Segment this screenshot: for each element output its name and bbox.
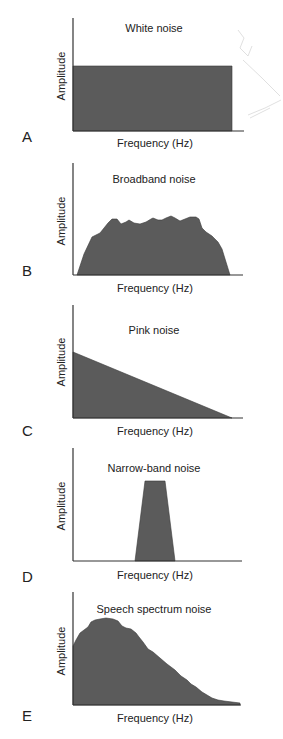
panel-title: Narrow-band noise bbox=[108, 462, 201, 474]
x-axis-label: Frequency (Hz) bbox=[117, 282, 193, 294]
panel-b: Broadband noise Amplitude Frequency (Hz)… bbox=[22, 163, 243, 294]
panel-letter: B bbox=[22, 262, 32, 279]
x-axis-label: Frequency (Hz) bbox=[117, 569, 193, 581]
panel-title: Broadband noise bbox=[112, 173, 195, 185]
x-axis-label: Frequency (Hz) bbox=[117, 712, 193, 724]
panel-letter: A bbox=[22, 128, 32, 145]
y-axis-label: Amplitude bbox=[55, 197, 67, 246]
noise-spectra-figure: White noise Amplitude Frequency (Hz) A B… bbox=[0, 0, 283, 739]
panel-letter: C bbox=[22, 422, 33, 439]
broadband-noise-spectrum bbox=[77, 216, 230, 275]
sketch-marks bbox=[238, 30, 281, 118]
pink-noise-spectrum bbox=[73, 352, 232, 418]
panel-e: Speech spectrum noise Amplitude Frequenc… bbox=[22, 592, 241, 724]
white-noise-spectrum bbox=[73, 66, 232, 131]
panel-c: Pink noise Amplitude Frequency (Hz) C bbox=[22, 305, 243, 439]
panel-title: White noise bbox=[125, 22, 182, 34]
panel-title: Pink noise bbox=[129, 324, 180, 336]
y-axis-label: Amplitude bbox=[55, 482, 67, 531]
panel-letter: E bbox=[22, 707, 32, 724]
x-axis-label: Frequency (Hz) bbox=[117, 137, 193, 149]
panel-d: Narrow-band noise Amplitude Frequency (H… bbox=[22, 448, 242, 585]
y-axis-label: Amplitude bbox=[55, 627, 67, 676]
panel-title: Speech spectrum noise bbox=[97, 603, 212, 615]
speech-spectrum-noise-spectrum bbox=[73, 618, 240, 705]
x-axis-label: Frequency (Hz) bbox=[117, 425, 193, 437]
panel-letter: D bbox=[22, 568, 33, 585]
y-axis-label: Amplitude bbox=[55, 52, 67, 101]
y-axis-label: Amplitude bbox=[55, 338, 67, 387]
narrow-band-noise-spectrum bbox=[135, 481, 175, 561]
panel-a: White noise Amplitude Frequency (Hz) A bbox=[22, 18, 244, 149]
